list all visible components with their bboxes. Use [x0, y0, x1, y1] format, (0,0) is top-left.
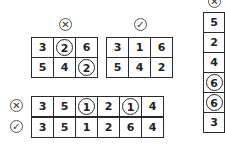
circled-number: 1 [78, 98, 95, 115]
grid-cell: 3 [32, 118, 54, 138]
grid-cell: 5 [54, 97, 76, 117]
grid-cell: 6 [76, 38, 98, 58]
grid-row: 316 [107, 38, 173, 58]
grid-cell: 3 [32, 38, 54, 58]
circled-number: 6 [206, 74, 223, 91]
cell-number: 4 [149, 100, 157, 113]
grid-cell: 3 [32, 97, 54, 117]
circled-number: 2 [56, 39, 73, 56]
grid-cell: 2 [54, 38, 76, 58]
cell-number: 3 [39, 41, 47, 54]
grid-cell: 6 [151, 38, 173, 58]
grid-row: 542 [107, 58, 173, 78]
grid-cell: 1 [120, 97, 142, 117]
grid-cell: 4 [54, 58, 76, 78]
grid-cell: 2 [204, 33, 225, 53]
circled-number: 2 [78, 59, 95, 76]
cell-number: 3 [39, 100, 47, 113]
grid-cell: 2 [76, 58, 98, 78]
cell-number: 5 [61, 121, 69, 134]
grid-right: 316542 [106, 37, 173, 78]
column-wrong: 524663 [203, 12, 225, 133]
grid-row: 351264 [32, 118, 164, 138]
cell-number: 1 [136, 41, 144, 54]
grid-cell: 3 [204, 113, 225, 133]
check-icon: ✓ [134, 18, 147, 31]
cell-number: 3 [39, 121, 47, 134]
grid-row: 6 [204, 93, 225, 113]
cell-number: 4 [210, 56, 218, 69]
grid-cell: 6 [204, 73, 225, 93]
grid-cell: 4 [142, 97, 164, 117]
cell-number: 5 [39, 61, 47, 74]
row-right: 351264 [31, 117, 164, 138]
cross-icon: ✕ [10, 99, 23, 112]
grid-cell: 1 [129, 38, 151, 58]
grid-row: 6 [204, 73, 225, 93]
cell-number: 2 [105, 121, 113, 134]
cell-number: 6 [158, 41, 166, 54]
grid-cell: 3 [107, 38, 129, 58]
grid-row: 5 [204, 13, 225, 33]
grid-cell: 2 [98, 97, 120, 117]
grid-cell: 4 [142, 118, 164, 138]
cell-number: 4 [136, 61, 144, 74]
grid-cell: 5 [32, 58, 54, 78]
cell-number: 4 [149, 121, 157, 134]
grid-cell: 5 [107, 58, 129, 78]
grid-cell: 6 [120, 118, 142, 138]
grid-row: 4 [204, 53, 225, 73]
cell-number: 5 [114, 61, 122, 74]
cell-number: 2 [158, 61, 166, 74]
grid-row: 2 [204, 33, 225, 53]
cell-number: 6 [127, 121, 135, 134]
grid-cell: 5 [54, 118, 76, 138]
circled-number: 6 [206, 94, 223, 111]
cell-number: 1 [83, 121, 91, 134]
grid-wrong: 326542 [31, 37, 98, 78]
grid-cell: 6 [204, 93, 225, 113]
cell-number: 2 [105, 100, 113, 113]
grid-cell: 1 [76, 97, 98, 117]
grid-cell: 2 [151, 58, 173, 78]
circled-number: 1 [122, 98, 139, 115]
grid-row: 326 [32, 38, 98, 58]
grid-cell: 4 [204, 53, 225, 73]
cell-number: 6 [83, 41, 91, 54]
grid-row: 542 [32, 58, 98, 78]
grid-cell: 1 [76, 118, 98, 138]
grid-row: 351214 [32, 97, 164, 117]
cell-number: 5 [61, 100, 69, 113]
row-wrong: 351214 [31, 96, 164, 117]
check-icon: ✓ [10, 120, 23, 133]
grid-row: 3 [204, 113, 225, 133]
cell-number: 3 [114, 41, 122, 54]
grid-cell: 5 [204, 13, 225, 33]
cross-icon: ✕ [59, 18, 72, 31]
grid-cell: 4 [129, 58, 151, 78]
cell-number: 4 [61, 61, 69, 74]
cross-icon: ✕ [208, 0, 221, 8]
cell-number: 3 [210, 116, 218, 129]
cell-number: 5 [210, 16, 218, 29]
grid-cell: 2 [98, 118, 120, 138]
cell-number: 2 [210, 36, 218, 49]
